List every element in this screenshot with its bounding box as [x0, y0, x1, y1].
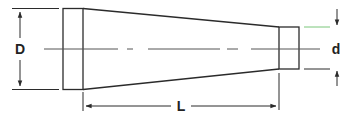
small-end-collar [279, 27, 299, 69]
large-diameter-label: D [15, 41, 25, 57]
length-label: L [177, 98, 186, 114]
small-diameter-label: d [332, 41, 341, 57]
reducer-diagram: D d L [0, 0, 352, 118]
